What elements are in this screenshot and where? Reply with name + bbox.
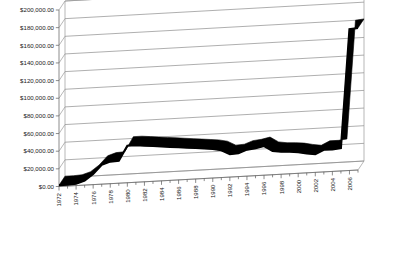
- x-axis-tick-label: 1982: [141, 188, 148, 202]
- gridline-depth-connector: [59, 107, 65, 116]
- y-axis-tick-label: $40,000.00: [24, 147, 55, 154]
- x-axis-tick-label: 1992: [226, 183, 233, 197]
- gridline-depth-connector: [59, 125, 65, 134]
- x-axis-tick-label: 1994: [243, 182, 250, 196]
- y-axis-tick-label: $100,000.00: [20, 94, 54, 101]
- y-axis-tick-label: $180,000.00: [20, 24, 54, 31]
- x-axis-tick-label: 1990: [209, 184, 216, 198]
- line-chart: $200,000.00$180,000.00$160,000.00$140,00…: [0, 0, 395, 253]
- x-axis-tick-label: 2004: [329, 177, 336, 191]
- x-axis-tick-label: 1978: [107, 190, 114, 204]
- y-axis-tick-label: $0.00: [39, 183, 55, 190]
- y-axis-tick-label: $20,000.00: [24, 165, 55, 172]
- y-axis-tick-label: $140,000.00: [20, 59, 54, 66]
- y-axis-tick-label: $160,000.00: [20, 42, 54, 49]
- gridline-depth-connector: [59, 54, 65, 63]
- gridline-depth-connector: [59, 1, 65, 10]
- y-axis-tick-label: $120,000.00: [20, 77, 54, 84]
- x-axis-tick-label: 1972: [55, 192, 62, 206]
- x-axis-tick-label: 1986: [175, 186, 182, 200]
- y-axis-tick-label: $200,000.00: [20, 6, 54, 13]
- x-axis-tick-label: 1974: [72, 191, 79, 205]
- x-axis-tick-label: 1988: [192, 185, 199, 199]
- gridline-depth-connector: [59, 160, 65, 169]
- chart-container: $200,000.00$180,000.00$160,000.00$140,00…: [0, 0, 395, 253]
- x-axis-tick-label: 2002: [312, 178, 319, 192]
- x-axis-tick-label: 1996: [260, 181, 267, 195]
- gridline-depth-connector: [59, 89, 65, 98]
- x-axis-tick-label: 2000: [295, 179, 302, 193]
- gridline-depth-connector: [59, 19, 65, 28]
- y-axis-labels: $200,000.00$180,000.00$160,000.00$140,00…: [20, 6, 55, 190]
- x-axis-tick-label: 1976: [90, 191, 97, 205]
- gridline-depth-connector: [59, 36, 65, 45]
- x-axis-tick-label: 1998: [278, 180, 285, 194]
- y-axis-tick-label: $60,000.00: [24, 130, 55, 137]
- gridline-depth-connector: [59, 72, 65, 81]
- gridline-depth-connector: [59, 142, 65, 151]
- x-axis-tick-label: 1984: [158, 187, 165, 201]
- x-axis-tick-label: 1980: [124, 189, 131, 203]
- x-axis-tick-label: 2006: [346, 176, 353, 190]
- y-axis-tick-label: $80,000.00: [24, 112, 55, 119]
